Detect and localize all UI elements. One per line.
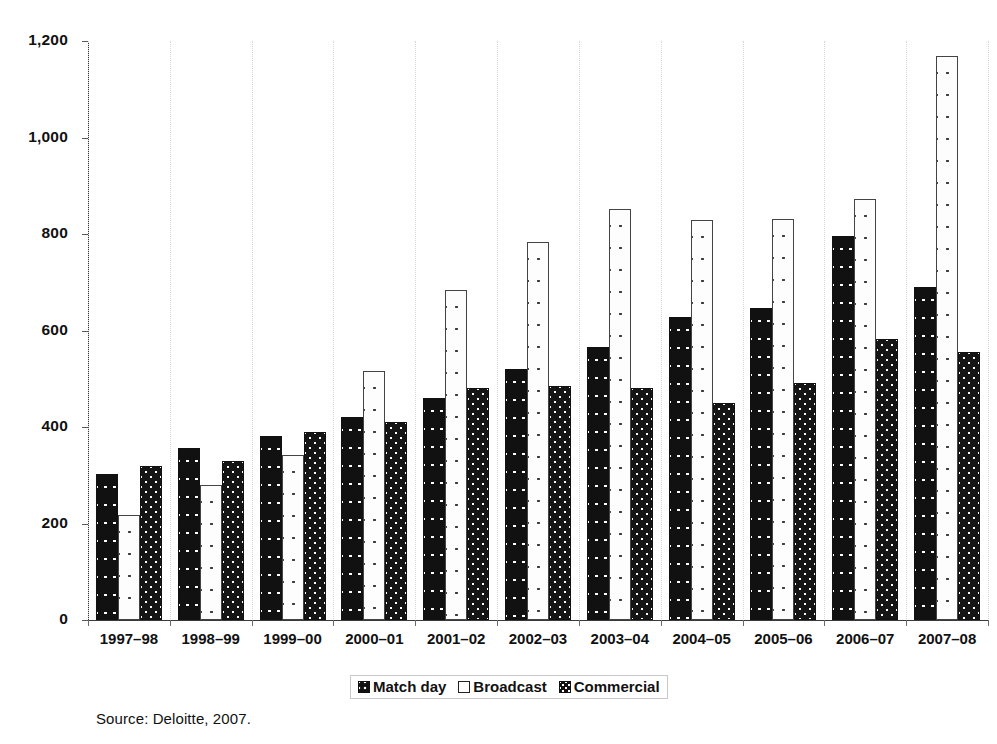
x-axis-tick: [497, 620, 498, 626]
bar-commercial-0: [140, 466, 162, 620]
bar-commercial-5: [549, 386, 571, 620]
x-axis-tick-label: 2007–08: [906, 630, 988, 647]
x-axis-line: [88, 620, 988, 621]
legend-item-broadcast[interactable]: Broadcast: [458, 678, 546, 695]
bar-matchday-2: [260, 436, 282, 620]
bar-broadcast-7: [691, 220, 713, 620]
x-axis-tick-label: 2001–02: [415, 630, 497, 647]
bar-commercial-8: [794, 383, 816, 620]
y-axis-tick-label: 1,000: [0, 128, 68, 146]
x-axis-tick-label: 2004–05: [661, 630, 743, 647]
x-axis-tick: [333, 620, 334, 626]
bar-commercial-4: [467, 388, 489, 620]
chart-legend: Match dayBroadcastCommercial: [350, 675, 668, 699]
x-axis-tick-label: 2002–03: [497, 630, 579, 647]
bar-matchday-4: [423, 398, 445, 620]
bar-broadcast-9: [854, 199, 876, 620]
x-axis-tick-label: 1999–00: [252, 630, 334, 647]
x-axis-tick: [579, 620, 580, 626]
bar-broadcast-5: [527, 242, 549, 620]
y-axis-tick-label: 400: [0, 417, 68, 435]
broadcast-swatch-icon: [458, 681, 470, 693]
bar-broadcast-1: [200, 485, 222, 620]
x-axis-tick-label: 2005–06: [743, 630, 825, 647]
x-axis-tick: [252, 620, 253, 626]
x-axis-tick: [906, 620, 907, 626]
x-axis-tick-label: 2003–04: [579, 630, 661, 647]
x-axis-tick-label: 1997–98: [88, 630, 170, 647]
bar-matchday-1: [178, 448, 200, 620]
x-axis-tick: [661, 620, 662, 626]
bar-broadcast-8: [772, 219, 794, 620]
bar-matchday-8: [750, 308, 772, 620]
legend-item-label: Commercial: [574, 678, 660, 695]
bar-broadcast-10: [936, 56, 958, 620]
chart-figure: 02004006008001,0001,200 1997–981998–9919…: [0, 0, 997, 744]
legend-item-label: Match day: [373, 678, 446, 695]
bar-matchday-5: [505, 369, 527, 620]
y-axis-tick-label: 1,200: [0, 31, 68, 49]
x-axis-tick-label: 2006–07: [824, 630, 906, 647]
matchday-swatch-icon: [358, 681, 370, 693]
x-axis-tick: [824, 620, 825, 626]
bar-matchday-6: [587, 347, 609, 620]
bar-broadcast-6: [609, 209, 631, 620]
y-axis-tick-label: 0: [0, 610, 68, 628]
bar-commercial-9: [876, 339, 898, 620]
y-axis-tick-label: 800: [0, 224, 68, 242]
legend-item-matchday[interactable]: Match day: [358, 678, 446, 695]
source-note: Source: Deloitte, 2007.: [96, 710, 251, 727]
x-axis-tick: [170, 620, 171, 626]
bar-commercial-7: [713, 403, 735, 620]
plot-area: [88, 41, 988, 620]
commercial-swatch-icon: [559, 681, 571, 693]
grid-line: [988, 41, 989, 621]
y-axis-tick-label: 600: [0, 321, 68, 339]
legend-item-commercial[interactable]: Commercial: [559, 678, 660, 695]
bar-commercial-6: [631, 388, 653, 620]
bar-commercial-10: [958, 352, 980, 620]
bar-broadcast-4: [445, 290, 467, 620]
bar-matchday-3: [341, 417, 363, 620]
bar-commercial-2: [304, 432, 326, 620]
bar-broadcast-2: [282, 455, 304, 620]
x-axis-tick: [988, 620, 989, 626]
bar-matchday-0: [96, 474, 118, 620]
bar-commercial-3: [385, 422, 407, 620]
bar-matchday-9: [832, 236, 854, 620]
bar-matchday-7: [669, 317, 691, 620]
y-axis-tick-label: 200: [0, 514, 68, 532]
bar-broadcast-0: [118, 515, 140, 620]
x-axis-tick-label: 2000–01: [333, 630, 415, 647]
x-axis-tick: [743, 620, 744, 626]
legend-item-label: Broadcast: [473, 678, 546, 695]
bar-broadcast-3: [363, 371, 385, 620]
bar-matchday-10: [914, 287, 936, 620]
x-axis-tick-label: 1998–99: [170, 630, 252, 647]
x-axis-tick: [415, 620, 416, 626]
bar-commercial-1: [222, 461, 244, 620]
x-axis-tick: [88, 620, 89, 626]
